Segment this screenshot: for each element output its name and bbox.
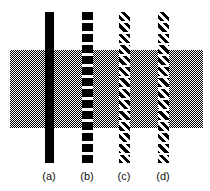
bar-label-a: (a) xyxy=(32,170,66,183)
figure-canvas: (a) (b) (c) (d) xyxy=(0,0,210,191)
bar-a-solid xyxy=(45,12,54,163)
bar-b-dashed xyxy=(82,12,93,163)
bar-label-b: (b) xyxy=(70,170,104,183)
bar-label-d: (d) xyxy=(146,170,180,183)
bar-c-diagonal-hatch xyxy=(119,12,130,163)
gray-band xyxy=(10,50,203,128)
bar-label-c: (c) xyxy=(107,170,141,183)
bar-d-diagonal-hatch xyxy=(158,12,169,163)
